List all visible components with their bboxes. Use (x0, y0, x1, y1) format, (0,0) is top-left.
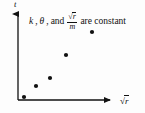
annotation-fraction-sqrt-r-over-m: √r m (67, 12, 77, 31)
data-point (48, 76, 52, 80)
annotation-comma-2: , (46, 17, 48, 27)
annotation-comma-1: , (35, 17, 37, 27)
annotation-are-constant: are constant (80, 17, 126, 27)
fraction-numerator: √r (67, 12, 77, 23)
annotation-conjunction: and (51, 17, 65, 27)
y-axis-label: t (14, 0, 16, 9)
annotation-symbol-theta: θ (40, 17, 45, 27)
annotation-symbol-k: k (29, 17, 33, 27)
data-point (34, 84, 38, 88)
x-axis-label: √r (120, 95, 129, 106)
fraction-numerator-radicand: r (72, 12, 76, 21)
data-point (22, 95, 26, 99)
constants-annotation: k, θ, and √r m are constant (29, 12, 143, 31)
x-axis-label-radicand: r (124, 95, 129, 106)
data-point (64, 53, 68, 57)
scatter-plot-figure: k, θ, and √r m are constant t √r (0, 0, 145, 113)
fraction-denominator: m (69, 23, 75, 32)
